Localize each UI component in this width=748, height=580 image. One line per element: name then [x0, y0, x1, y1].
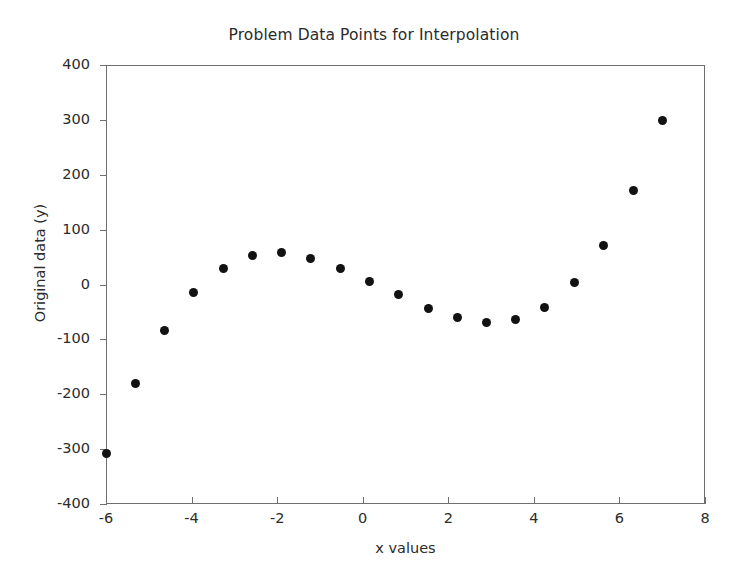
x-tick-mark	[619, 497, 620, 504]
y-tick-mark	[100, 65, 107, 66]
y-tick-mark	[100, 339, 107, 340]
x-tick-label: -6	[76, 511, 136, 526]
y-tick-label: -200	[28, 386, 90, 401]
y-tick-mark	[100, 285, 107, 286]
x-tick-mark	[363, 497, 364, 504]
y-tick-label: -400	[28, 496, 90, 511]
x-tick-label: -4	[162, 511, 222, 526]
y-tick-label: -100	[28, 331, 90, 346]
y-tick-mark	[100, 394, 107, 395]
x-tick-label: 2	[418, 511, 478, 526]
y-tick-mark	[100, 175, 107, 176]
y-tick-label: 300	[28, 112, 90, 127]
plot-area-frame	[106, 65, 705, 504]
x-tick-mark	[277, 497, 278, 504]
x-tick-mark	[534, 497, 535, 504]
x-tick-mark	[705, 497, 706, 504]
x-tick-mark	[192, 497, 193, 504]
figure-canvas: Problem Data Points for Interpolation Or…	[0, 0, 748, 580]
y-tick-label: -300	[28, 441, 90, 456]
y-tick-label: 0	[28, 277, 90, 292]
x-axis-label: x values	[106, 540, 705, 556]
y-tick-mark	[100, 230, 107, 231]
x-tick-label: 6	[589, 511, 649, 526]
x-tick-mark	[448, 497, 449, 504]
x-tick-label: 0	[333, 511, 393, 526]
y-tick-label: 100	[28, 222, 90, 237]
x-tick-label: 4	[504, 511, 564, 526]
y-tick-mark	[100, 449, 107, 450]
y-tick-mark	[100, 504, 107, 505]
y-tick-label: 200	[28, 167, 90, 182]
y-tick-mark	[100, 120, 107, 121]
y-tick-label: 400	[28, 57, 90, 72]
x-tick-mark	[106, 497, 107, 504]
chart-title: Problem Data Points for Interpolation	[0, 26, 748, 44]
x-tick-label: -2	[247, 511, 307, 526]
x-tick-label: 8	[675, 511, 735, 526]
